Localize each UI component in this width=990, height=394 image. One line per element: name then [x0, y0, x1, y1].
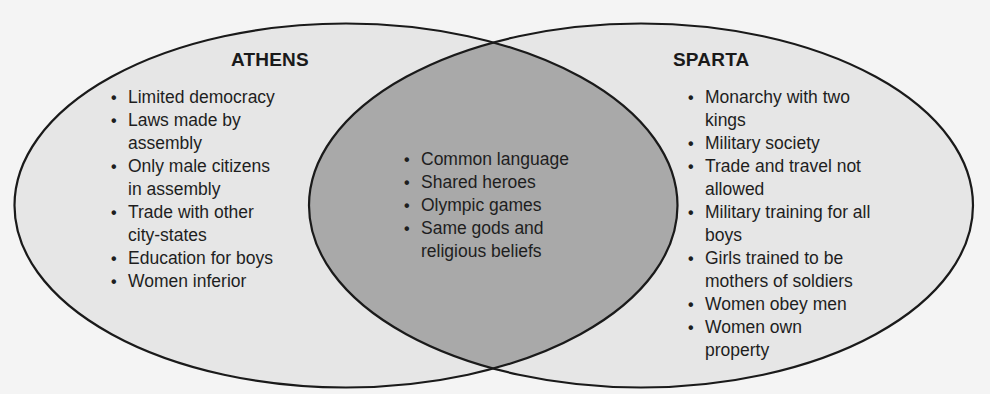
item-line: Women obey men	[705, 294, 847, 314]
item-line: Monarchy with two	[705, 87, 850, 107]
item-line: Education for boys	[128, 248, 273, 268]
item-line: mothers of soldiers	[705, 271, 853, 291]
item-line: boys	[705, 225, 742, 245]
list-item: Limited democracy	[111, 86, 311, 109]
bullet-icon	[688, 155, 705, 178]
sparta-list: Monarchy with two kings Military society…	[688, 86, 908, 362]
bullet-icon	[404, 217, 421, 240]
bullet-icon	[688, 247, 705, 270]
overlap-list: Common language Shared heroes Olympic ga…	[404, 148, 594, 263]
item-line: Women own	[705, 317, 802, 337]
item-line: Same gods and	[421, 218, 544, 238]
bullet-icon	[404, 194, 421, 217]
list-item: Girls trained to be mothers of soldiers	[688, 247, 908, 293]
list-item: Monarchy with two kings	[688, 86, 908, 132]
item-line: Laws made by	[128, 110, 241, 130]
item-line: Shared heroes	[421, 172, 536, 192]
bullet-icon	[404, 171, 421, 194]
bullet-icon	[111, 201, 128, 224]
list-item: Trade with other city-states	[111, 201, 311, 247]
item-line: in assembly	[128, 179, 220, 199]
list-item: Only male citizens in assembly	[111, 155, 311, 201]
list-item: Women obey men	[688, 293, 908, 316]
list-item: Laws made by assembly	[111, 109, 311, 155]
bullet-icon	[111, 86, 128, 109]
bullet-icon	[111, 270, 128, 293]
list-item: Olympic games	[404, 194, 594, 217]
item-line: Trade with other	[128, 202, 254, 222]
list-item: Shared heroes	[404, 171, 594, 194]
item-line: assembly	[128, 133, 202, 153]
sparta-title: SPARTA	[673, 48, 750, 71]
bullet-icon	[688, 293, 705, 316]
athens-list: Limited democracy Laws made by assembly …	[111, 86, 311, 293]
list-item: Trade and travel not allowed	[688, 155, 908, 201]
bullet-icon	[111, 109, 128, 132]
list-item: Education for boys	[111, 247, 311, 270]
item-line: Military training for all	[705, 202, 870, 222]
list-item: Same gods and religious beliefs	[404, 217, 594, 263]
item-line: Limited democracy	[128, 87, 275, 107]
list-item: Common language	[404, 148, 594, 171]
item-line: Trade and travel not	[705, 156, 861, 176]
item-line: city-states	[128, 225, 207, 245]
bullet-icon	[688, 316, 705, 339]
bullet-icon	[688, 132, 705, 155]
item-line: kings	[705, 110, 746, 130]
item-line: Girls trained to be	[705, 248, 843, 268]
item-line: Common language	[421, 149, 569, 169]
bullet-icon	[404, 148, 421, 171]
venn-diagram: ATHENS Limited democracy Laws made by as…	[0, 0, 990, 394]
bullet-icon	[688, 86, 705, 109]
item-line: Only male citizens	[128, 156, 270, 176]
item-line: Olympic games	[421, 195, 542, 215]
list-item: Military training for all boys	[688, 201, 908, 247]
item-line: allowed	[705, 179, 764, 199]
bullet-icon	[688, 201, 705, 224]
item-line: Women inferior	[128, 271, 246, 291]
athens-title: ATHENS	[231, 48, 309, 71]
item-line: Military society	[705, 133, 820, 153]
bullet-icon	[111, 247, 128, 270]
bullet-icon	[111, 155, 128, 178]
item-line: property	[705, 340, 769, 360]
list-item: Military society	[688, 132, 908, 155]
list-item: Women own property	[688, 316, 908, 362]
list-item: Women inferior	[111, 270, 311, 293]
item-line: religious beliefs	[421, 241, 542, 261]
